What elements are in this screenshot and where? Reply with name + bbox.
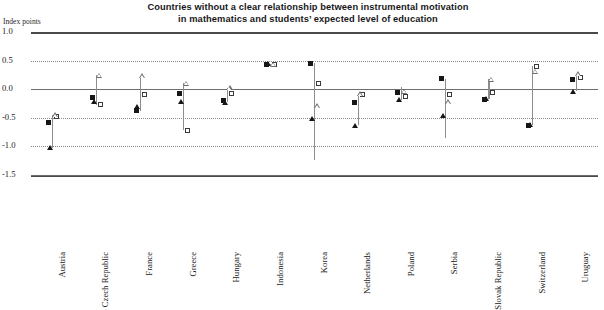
marker-filled-square bbox=[570, 77, 575, 82]
range-line bbox=[52, 115, 53, 148]
marker-filled-triangle bbox=[570, 89, 576, 94]
y-tick-label: 1.0 bbox=[2, 26, 28, 36]
range-line bbox=[358, 94, 359, 125]
marker-filled-triangle bbox=[440, 113, 446, 118]
data-group-korea[interactable] bbox=[293, 32, 337, 175]
range-line bbox=[445, 79, 446, 138]
marker-open-triangle bbox=[488, 77, 494, 82]
marker-open-triangle bbox=[227, 85, 233, 90]
data-group-slovak-republic[interactable] bbox=[467, 32, 511, 175]
marker-open-triangle bbox=[270, 62, 276, 67]
y-axis-unit-label: Index points bbox=[3, 17, 41, 26]
x-tick-label-czech-republic: Czech Republic bbox=[100, 252, 110, 307]
data-group-uruguay[interactable] bbox=[554, 32, 598, 175]
marker-open-square bbox=[316, 81, 321, 86]
data-group-indonesia[interactable] bbox=[249, 32, 293, 175]
x-tick-label-france: France bbox=[144, 252, 154, 276]
range-line bbox=[532, 66, 533, 125]
marker-filled-square bbox=[352, 100, 357, 105]
marker-open-triangle bbox=[314, 103, 320, 108]
x-axis-labels: AustriaCzech RepublicFranceGreeceHungary… bbox=[31, 178, 598, 256]
marker-filled-square bbox=[177, 91, 182, 96]
marker-filled-triangle bbox=[178, 99, 184, 104]
x-tick-label-korea: Korea bbox=[319, 252, 329, 273]
marker-filled-triangle bbox=[396, 97, 402, 102]
y-tick-label: -1.0 bbox=[2, 140, 28, 150]
marker-filled-square bbox=[395, 90, 400, 95]
marker-open-square bbox=[490, 90, 495, 95]
marker-open-square bbox=[229, 91, 234, 96]
x-tick-label-slovak-republic: Slovak Republic bbox=[493, 252, 503, 310]
marker-open-triangle bbox=[183, 81, 189, 86]
plot-area: 1.00.50.0-0.5-1.0-1.5 bbox=[31, 32, 598, 175]
marker-open-square bbox=[447, 92, 452, 97]
marker-filled-triangle bbox=[47, 145, 53, 150]
y-tick-label: -0.5 bbox=[2, 112, 28, 122]
y-tick-label: 0.5 bbox=[2, 55, 28, 65]
chart-title-line-1: Countries without a clear relationship b… bbox=[78, 2, 538, 14]
data-group-greece[interactable] bbox=[162, 32, 206, 175]
x-tick-label-indonesia: Indonesia bbox=[275, 252, 285, 286]
marker-filled-triangle bbox=[309, 116, 315, 121]
marker-open-triangle bbox=[139, 73, 145, 78]
y-tick-label: -1.5 bbox=[2, 169, 28, 179]
range-line bbox=[183, 83, 184, 130]
x-tick-label-hungary: Hungary bbox=[231, 252, 241, 282]
x-tick-label-austria: Austria bbox=[57, 252, 67, 278]
marker-filled-square bbox=[46, 120, 51, 125]
x-tick-label-greece: Greece bbox=[188, 252, 198, 277]
y-tick-label: 0.0 bbox=[2, 83, 28, 93]
chart-title-line-2: in mathematics and students’ expected le… bbox=[78, 14, 538, 26]
marker-filled-triangle bbox=[352, 123, 358, 128]
data-group-hungary[interactable] bbox=[205, 32, 249, 175]
marker-open-triangle bbox=[357, 91, 363, 96]
marker-filled-square bbox=[439, 76, 444, 81]
x-tick-label-netherlands: Netherlands bbox=[362, 252, 372, 294]
marker-open-square bbox=[98, 102, 103, 107]
range-line bbox=[314, 63, 315, 159]
marker-open-square bbox=[185, 128, 190, 133]
marker-open-square bbox=[142, 92, 147, 97]
marker-open-square bbox=[403, 94, 408, 99]
marker-open-triangle bbox=[575, 71, 581, 76]
x-tick-label-serbia: Serbia bbox=[449, 252, 459, 274]
x-tick-label-switzerland: Switzerland bbox=[537, 252, 547, 294]
marker-open-triangle bbox=[445, 99, 451, 104]
data-group-serbia[interactable] bbox=[424, 32, 468, 175]
marker-open-triangle bbox=[52, 112, 58, 117]
marker-filled-square bbox=[308, 61, 313, 66]
x-tick-label-poland: Poland bbox=[406, 252, 416, 276]
marker-filled-triangle bbox=[483, 96, 489, 101]
data-group-poland[interactable] bbox=[380, 32, 424, 175]
marker-open-triangle bbox=[401, 89, 407, 94]
data-group-czech-republic[interactable] bbox=[75, 32, 119, 175]
marker-filled-triangle bbox=[134, 104, 140, 109]
marker-filled-triangle bbox=[222, 100, 228, 105]
data-group-netherlands[interactable] bbox=[336, 32, 380, 175]
x-tick-label-uruguay: Uruguay bbox=[580, 252, 590, 282]
data-group-austria[interactable] bbox=[31, 32, 75, 175]
marker-filled-triangle bbox=[527, 122, 533, 127]
data-group-france[interactable] bbox=[118, 32, 162, 175]
data-group-switzerland[interactable] bbox=[511, 32, 555, 175]
chart-title: Countries without a clear relationship b… bbox=[78, 2, 538, 25]
marker-open-triangle bbox=[532, 69, 538, 74]
marker-open-triangle bbox=[96, 73, 102, 78]
marker-filled-triangle bbox=[91, 99, 97, 104]
x-axis-line bbox=[31, 175, 598, 176]
